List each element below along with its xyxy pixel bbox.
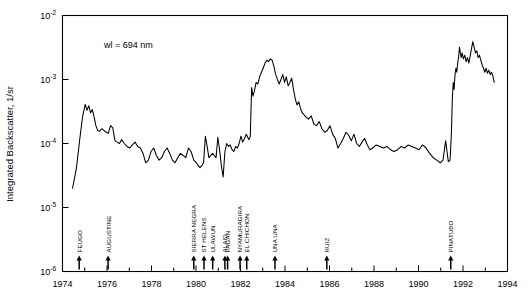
backscatter-time-series-chart: Integrated Backscatter, 1/sr 10-210-310-…: [0, 0, 530, 300]
eruption-marker: ULAWUN: [209, 225, 216, 269]
eruption-arrow-head: [191, 256, 196, 261]
eruption-marker: FEUGO: [76, 230, 83, 270]
y-axis-tick-labels: 10-210-310-410-510-6: [40, 9, 56, 277]
plot-frame: [63, 16, 508, 272]
eruption-label: SIERRA NEGRA: [190, 204, 197, 252]
x-tick-label: 1988: [364, 279, 384, 289]
eruption-markers-group: FEUGOAUGUSTINESIERRA NEGRAST HELENSULAWU…: [76, 204, 455, 269]
eruption-arrow-head: [324, 256, 329, 261]
x-tick-label: 1986: [319, 279, 339, 289]
eruption-arrow-head: [237, 256, 242, 261]
y-axis-title-group: Integrated Backscatter, 1/sr: [4, 86, 15, 202]
eruption-arrow-head: [272, 256, 277, 261]
y-axis-title: Integrated Backscatter, 1/sr: [4, 86, 15, 202]
x-axis-tick-labels: 1974197619781980198219841986198819901992…: [52, 279, 517, 289]
x-tick-label: 1978: [141, 279, 161, 289]
eruption-marker: EL CHICHON: [243, 214, 250, 270]
eruption-label: RUIZ: [323, 238, 330, 253]
x-tick-label: 1992: [453, 279, 473, 289]
eruption-arrow-head: [210, 256, 215, 261]
eruption-marker: SIERRA NEGRA: [190, 204, 197, 269]
wavelength-annotation: wl = 694 nm: [103, 40, 153, 50]
eruption-arrow-head: [77, 256, 82, 261]
x-tick-label: 1980: [186, 279, 206, 289]
eruption-arrow-head: [448, 256, 453, 261]
eruption-marker: UNA UNA: [271, 224, 278, 270]
eruption-marker: PINATUBO: [447, 220, 454, 269]
eruption-label: EL CHICHON: [243, 214, 250, 253]
eruption-label: ULAWUN: [209, 225, 216, 252]
eruption-arrow-head: [106, 256, 111, 261]
y-tick-label: 10-5: [40, 201, 56, 213]
x-tick-label: 1984: [275, 279, 295, 289]
eruption-label: PINATUBO: [447, 220, 454, 252]
eruption-arrow-head: [201, 256, 206, 261]
eruption-label: FEUGO: [76, 230, 83, 253]
x-tick-label: 1976: [97, 279, 117, 289]
y-tick-label: 10-2: [40, 9, 56, 21]
y-tick-label: 10-6: [40, 265, 56, 277]
eruption-label: PAGAN: [224, 231, 231, 253]
x-tick-label: 1990: [408, 279, 428, 289]
eruption-label: ST HELENS: [200, 217, 207, 252]
eruption-label: UNA UNA: [271, 224, 278, 253]
eruption-marker: ST HELENS: [200, 217, 207, 269]
axis-tick-marks: [63, 80, 508, 272]
x-tick-label: 1974: [52, 279, 72, 289]
y-tick-label: 10-3: [40, 73, 56, 85]
eruption-marker: AUGUSTINE: [105, 216, 112, 270]
eruption-arrow-head: [244, 256, 249, 261]
y-tick-label: 10-4: [40, 137, 56, 149]
x-tick-label: 1982: [230, 279, 250, 289]
backscatter-data-line: [73, 42, 495, 189]
x-tick-label: 1994: [497, 279, 517, 289]
chart-figure: Integrated Backscatter, 1/sr 10-210-310-…: [0, 0, 530, 300]
eruption-marker: RUIZ: [323, 238, 330, 270]
eruption-label: AUGUSTINE: [105, 216, 112, 253]
